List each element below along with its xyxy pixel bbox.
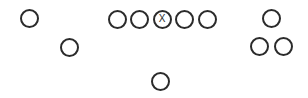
player-right-slot-inside[interactable] — [250, 37, 269, 56]
player-left-wide-receiver[interactable] — [20, 9, 39, 28]
player-center-label: X — [159, 14, 166, 24]
player-backfield[interactable] — [151, 72, 170, 91]
player-right-slot-outside[interactable] — [274, 37, 293, 56]
player-left-guard[interactable] — [130, 10, 149, 29]
player-left-tackle[interactable] — [108, 10, 127, 29]
player-right-guard[interactable] — [175, 10, 194, 29]
player-left-slot[interactable] — [60, 38, 79, 57]
formation-diagram: X — [0, 0, 308, 98]
player-center[interactable]: X — [153, 10, 172, 29]
player-right-tackle[interactable] — [198, 10, 217, 29]
player-right-wide-receiver[interactable] — [262, 9, 281, 28]
